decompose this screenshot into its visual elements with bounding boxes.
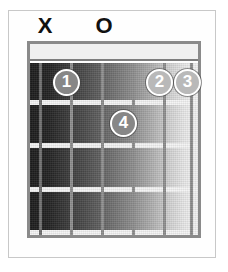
chord-diagram: X O 1 2 3 4	[0, 0, 228, 272]
finger-dot-2[interactable]: 2	[146, 69, 173, 96]
finger-dot-3[interactable]: 3	[174, 69, 201, 96]
finger-dot-4[interactable]: 4	[110, 110, 137, 137]
string-marker-muted-6: X	[34, 13, 56, 39]
fretboard	[27, 41, 201, 238]
fretboard-border	[27, 41, 201, 238]
string-marker-open-4: O	[93, 13, 115, 39]
open-muted-marker-row: X O	[8, 13, 216, 39]
finger-dot-1[interactable]: 1	[53, 69, 80, 96]
